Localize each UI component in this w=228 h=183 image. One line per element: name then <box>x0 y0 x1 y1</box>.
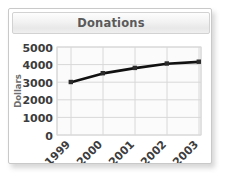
data-point-2003 <box>197 60 201 64</box>
xtick-label-2001: 2001 <box>106 138 137 163</box>
data-point-2001 <box>133 66 137 70</box>
data-point-2002 <box>165 61 169 65</box>
line-chart-svg: 5000 4000 3000 2000 1000 0 Dollars 1999 … <box>9 35 211 163</box>
ytick-label-3000: 3000 <box>22 77 53 90</box>
xtick-label-2003: 2003 <box>170 138 201 163</box>
chart-card: Donations <box>8 8 212 164</box>
plot-background <box>57 47 201 135</box>
data-point-1999 <box>69 80 73 84</box>
ytick-label-0: 0 <box>45 130 53 143</box>
data-point-2000 <box>101 71 105 75</box>
ytick-label-1000: 1000 <box>22 112 53 125</box>
ytick-label-2000: 2000 <box>22 94 53 107</box>
xtick-label-2002: 2002 <box>138 138 169 163</box>
ytick-label-5000: 5000 <box>22 42 53 55</box>
ytick-label-4000: 4000 <box>22 59 53 72</box>
xtick-label-2000: 2000 <box>74 138 105 163</box>
chart-plot-container: 5000 4000 3000 2000 1000 0 Dollars 1999 … <box>9 35 211 163</box>
page-title: Donations <box>77 16 145 30</box>
chart-title-bar: Donations <box>12 12 210 34</box>
y-axis-title: Dollars <box>13 74 23 108</box>
